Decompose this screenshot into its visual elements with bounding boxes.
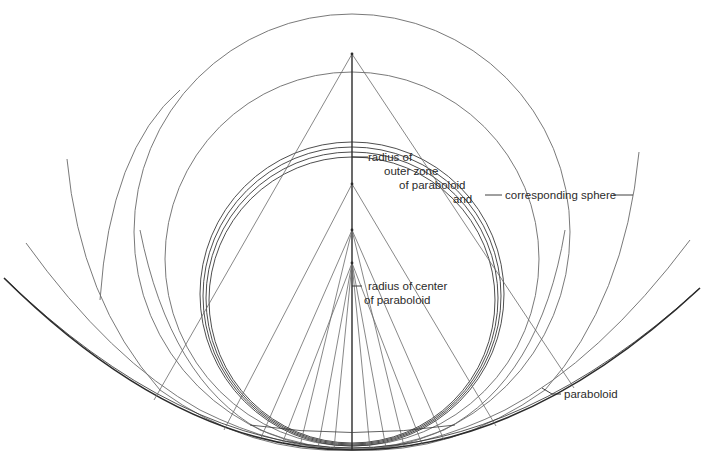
focal-point-apex [351, 53, 354, 56]
focal-point-outer-zone [351, 183, 354, 186]
radius-apex-left [154, 54, 352, 400]
diagram-page: radius of outer zone of paraboloid and c… [0, 0, 707, 458]
radius-apex-right [352, 54, 574, 388]
label-and: and [453, 192, 472, 206]
radius-center-left-2 [334, 263, 352, 449]
focal-point-mid [351, 229, 354, 232]
label-center-1: radius of center [368, 279, 447, 293]
label-outer-zone-2: outer zone [384, 164, 438, 178]
label-outer-zone-1: radius of [368, 150, 412, 164]
focal-point-center [351, 262, 354, 265]
label-outer-zone-3: of paraboloid [399, 178, 466, 192]
radius-center-left-3 [282, 263, 352, 444]
arc-left-outer [100, 90, 180, 300]
label-corresponding-sphere: corresponding sphere [505, 188, 616, 202]
radius-mid-right-2 [352, 230, 404, 446]
radius-mid-left-2 [300, 230, 352, 446]
label-paraboloid: paraboloid [564, 387, 618, 401]
radius-center-left [318, 263, 352, 448]
label-center-2: of paraboloid [364, 293, 431, 307]
radius-outer-left [224, 184, 352, 430]
